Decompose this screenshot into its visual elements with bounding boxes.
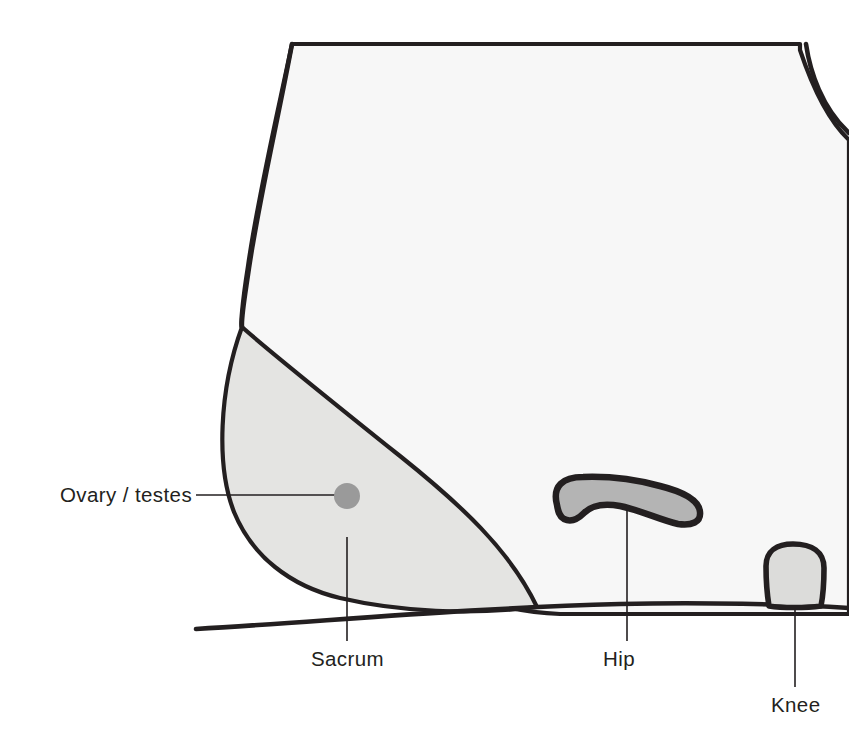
anatomy-illustration: Ovary / testes Sacrum Hip Knee — [0, 0, 849, 751]
label-ovary-testes: Ovary / testes — [60, 483, 192, 506]
label-knee: Knee — [771, 693, 820, 716]
label-hip: Hip — [603, 647, 635, 670]
ovary-testes-marker — [334, 483, 360, 509]
anatomical-diagram-canvas: Ovary / testes Sacrum Hip Knee — [0, 0, 849, 751]
knee-region-shape — [766, 544, 824, 608]
label-sacrum: Sacrum — [311, 647, 384, 670]
